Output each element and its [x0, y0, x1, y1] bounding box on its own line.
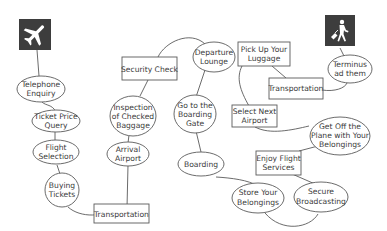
edge-inspection-security [140, 80, 148, 96]
svg-text:Transportation: Transportation [93, 210, 149, 219]
svg-text:Broadcasting: Broadcasting [296, 197, 346, 206]
node-ticket-price-query: Ticket Price Query [32, 110, 80, 132]
svg-text:Buying: Buying [49, 181, 75, 190]
svg-text:ad them: ad them [334, 69, 366, 78]
svg-text:Telephone: Telephone [21, 80, 61, 89]
node-secure-broadcasting: Secure Broadcasting [294, 182, 348, 212]
edge-departure-gate [196, 70, 205, 97]
svg-text:Tickets: Tickets [48, 190, 75, 199]
svg-text:Lounge: Lounge [200, 57, 228, 66]
svg-text:Airport: Airport [115, 154, 141, 163]
svg-text:Belongings: Belongings [319, 140, 361, 149]
node-flight-selection: Flight Selection [33, 140, 79, 164]
svg-text:Security Check: Security Check [121, 65, 179, 74]
svg-text:Secure: Secure [308, 187, 334, 196]
airplane-icon [19, 18, 51, 50]
node-store-belongings: Store Your Belongings [232, 183, 284, 213]
svg-text:Arrival: Arrival [116, 145, 141, 154]
svg-text:Get Off the: Get Off the [319, 122, 361, 131]
edge-start-telephone [37, 50, 39, 76]
traveler-with-luggage-icon [325, 15, 355, 46]
svg-text:Terminus: Terminus [332, 60, 367, 69]
svg-text:Belongings: Belongings [237, 198, 279, 207]
svg-text:Query: Query [44, 121, 68, 130]
edge-select-pickup [239, 66, 249, 106]
svg-text:Gate: Gate [186, 119, 205, 128]
node-get-off-plane: Get Off the Plane with Your Belongings [310, 117, 370, 155]
node-departure-lounge: Departure Lounge [193, 42, 235, 72]
svg-text:Services: Services [262, 163, 294, 172]
process-flow-diagram: Telephone Enquiry Ticket Price Query Fli… [0, 0, 387, 231]
node-terminus: Terminus ad them [328, 55, 372, 83]
edge-transport-terminus [322, 83, 347, 91]
node-transportation-2: Transportation [268, 78, 324, 99]
node-buying-tickets: Buying Tickets [45, 173, 79, 207]
node-boarding: Boarding [178, 152, 224, 176]
svg-text:Flight: Flight [45, 143, 66, 152]
node-select-next-airport: Select Next Airport [232, 105, 277, 127]
edge-gate-boarding [196, 131, 201, 152]
svg-text:Boarding: Boarding [178, 110, 212, 119]
svg-text:Enjoy Flight: Enjoy Flight [256, 154, 300, 163]
node-security-check: Security Check [121, 57, 179, 80]
svg-text:Transportation: Transportation [268, 84, 324, 93]
edge-terminus-end [340, 48, 344, 56]
svg-text:Boarding: Boarding [184, 160, 218, 169]
svg-text:Inspection: Inspection [113, 103, 152, 112]
svg-text:of Checked: of Checked [112, 112, 154, 121]
svg-text:Baggage: Baggage [116, 121, 150, 130]
svg-text:Select Next: Select Next [233, 107, 277, 116]
node-transportation-1: Transportation [93, 204, 149, 223]
node-arrival-airport: Arrival Airport [107, 142, 149, 166]
svg-text:Selection: Selection [39, 152, 74, 161]
edge-flight-buying [57, 165, 60, 174]
svg-text:Luggage: Luggage [248, 54, 281, 63]
edge-pickup-transport [272, 66, 286, 78]
svg-text:Store Your: Store Your [239, 188, 279, 197]
node-telephone-enquiry: Telephone Enquiry [17, 76, 65, 102]
node-enjoy-flight-services: Enjoy Flight Services [256, 151, 301, 175]
svg-text:Departure: Departure [195, 48, 234, 57]
edge-transport-arrival [127, 165, 128, 208]
svg-text:Go to the: Go to the [177, 101, 213, 110]
svg-text:Pick Up Your: Pick Up Your [241, 45, 288, 54]
svg-text:Plane with Your: Plane with Your [311, 131, 370, 140]
svg-text:Airport: Airport [242, 116, 268, 125]
node-pick-up-luggage: Pick Up Your Luggage [238, 42, 290, 66]
svg-text:Ticket Price: Ticket Price [33, 112, 78, 121]
node-inspection-checked-baggage: Inspection of Checked Baggage [110, 96, 156, 136]
svg-text:Enquiry: Enquiry [27, 89, 56, 98]
edge-store-secure [265, 213, 318, 226]
node-go-to-boarding-gate: Go to the Boarding Gate [174, 95, 216, 133]
